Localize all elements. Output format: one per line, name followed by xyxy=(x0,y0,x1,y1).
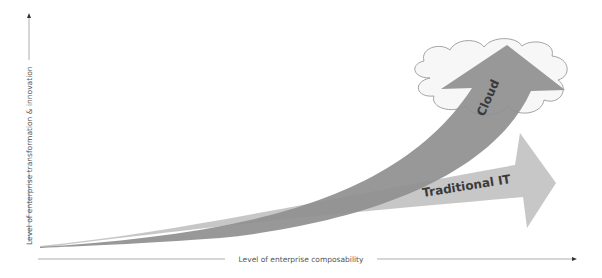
x-axis-arrowhead-icon xyxy=(572,257,577,261)
y-axis-label: Level of enterprise transformation & inn… xyxy=(25,66,34,245)
cloud-arrow: Cloud xyxy=(40,45,565,248)
x-axis-label: Level of enterprise composability xyxy=(239,255,364,264)
y-axis-arrowhead-icon xyxy=(27,13,31,18)
diagram-canvas: Level of enterprise transformation & inn… xyxy=(0,0,602,278)
x-axis: Level of enterprise composability xyxy=(38,255,577,264)
y-axis: Level of enterprise transformation & inn… xyxy=(25,13,34,245)
